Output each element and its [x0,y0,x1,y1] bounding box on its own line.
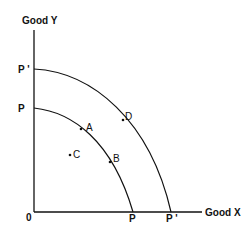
ppf-diagram: Good Y Good X 0 P ' P P P ' A B C D [0,0,244,237]
outer-x-intercept-label: P ' [166,213,178,224]
y-axis-label: Good Y [22,15,58,26]
point-d-dot [122,119,125,122]
point-d-label: D [125,111,132,122]
outer-ppf-curve [34,69,171,212]
point-c-label: C [73,149,80,160]
point-b-dot [109,161,112,164]
inner-x-intercept-label: P [129,213,136,224]
inner-y-intercept-label: P [18,103,25,114]
point-b-label: B [113,153,120,164]
origin-label: 0 [26,212,32,223]
point-a-label: A [86,122,93,133]
point-c-dot [69,154,72,157]
x-axis-label: Good X [205,207,241,218]
point-a-dot [80,128,83,131]
outer-y-intercept-label: P ' [18,64,30,75]
